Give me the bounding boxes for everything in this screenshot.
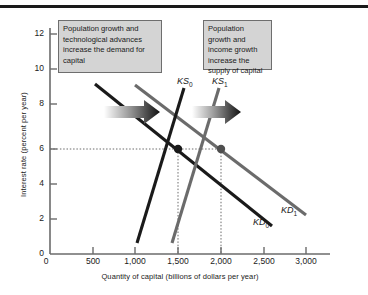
curve-label-ks0: KS0 <box>177 76 193 88</box>
x-axis-title: Quantity of capital (billions of dollars… <box>46 272 314 281</box>
curve-label-ks0-sub: 0 <box>189 81 193 88</box>
supply-shift-arrow <box>192 100 241 124</box>
x-tick-label-1500: 1,500 <box>158 256 198 266</box>
curve-label-kd1: KD1 <box>281 205 297 217</box>
x-tick-label-3000: 3,000 <box>286 256 326 266</box>
x-tick-label-0: 0 <box>26 256 66 266</box>
demand-shift-callout: Population growth and technological adva… <box>58 20 162 73</box>
equilibrium-point-initial <box>174 145 182 153</box>
demand-shift-arrow <box>104 100 160 124</box>
figure-capital-market-diagram: 12 10 8 6 4 2 0 0 500 1,000 1,500 2,000 … <box>0 0 368 295</box>
y-tick-label-12: 12 <box>22 28 44 38</box>
curve-label-ks0-text: KS <box>177 76 189 86</box>
curve-label-ks1-sub: 1 <box>224 81 228 88</box>
y-axis-ticks <box>50 34 57 219</box>
x-tick-label-1000: 1,000 <box>115 256 155 266</box>
curve-label-kd1-sub: 1 <box>294 210 298 217</box>
curve-label-kd0-text: KD <box>253 217 266 227</box>
curve-label-kd0-sub: 0 <box>266 222 270 229</box>
supply-shift-callout: Population growth and income growth incr… <box>203 20 272 70</box>
x-tick-label-2500: 2,500 <box>244 256 284 266</box>
curve-label-kd1-text: KD <box>281 205 294 215</box>
chart-plot-area <box>0 0 368 295</box>
x-tick-label-2000: 2,000 <box>201 256 241 266</box>
curve-label-ks1-text: KS <box>212 76 224 86</box>
y-axis-title: Interest rate (percent per year) <box>19 70 28 220</box>
x-axis-ticks <box>93 247 306 254</box>
x-tick-label-500: 500 <box>73 256 113 266</box>
equilibrium-point-new <box>217 145 225 153</box>
curve-label-kd0: KD0 <box>253 217 269 229</box>
curve-label-ks1: KS1 <box>212 76 228 88</box>
